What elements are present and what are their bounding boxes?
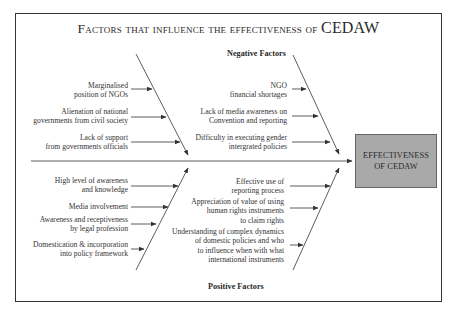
title-emphasis: CEDAW — [321, 19, 379, 36]
factor-marginalised-ngos: Marginalised position of NGOs — [74, 81, 128, 100]
factor-legal-profession: Awareness and receptiveness by legal pro… — [40, 215, 128, 234]
positive-factors-heading: Positive Factors — [208, 282, 264, 291]
bone-lower-right — [293, 168, 339, 270]
factor-appreciation-hr-instruments: Appreciation of value of using human rig… — [191, 197, 284, 225]
factor-high-awareness: High level of awareness and knowledge — [55, 176, 128, 195]
factor-understanding-dynamics: Understanding of complex dynamics of dom… — [172, 227, 284, 265]
factor-difficulty-gender-policies: Difficulty in executing gender intergrat… — [195, 133, 287, 152]
bone-upper-left — [136, 54, 188, 155]
effect-line2: OF CEDAW — [374, 161, 418, 172]
bone-upper-right — [293, 55, 339, 154]
effect-line1: EFFECTIVENESS — [363, 150, 429, 161]
title-prefix: Factors that influence the effectiveness… — [78, 21, 321, 36]
factor-ngo-financial-shortages: NGO financial shortages — [230, 81, 287, 100]
negative-factors-heading: Negative Factors — [227, 49, 286, 58]
factor-lack-of-support: Lack of support from governments officia… — [45, 133, 128, 152]
factor-media-involvement: Media involvement — [69, 202, 128, 211]
effect-box: EFFECTIVENESS OF CEDAW — [355, 134, 437, 188]
factor-effective-reporting: Effective use of reporting process — [231, 177, 284, 196]
factor-lack-media-awareness: Lack of media awareness on Convention an… — [201, 107, 287, 126]
factor-alienation-governments: Alienation of national governments from … — [33, 107, 128, 126]
diagram-title: Factors that influence the effectiveness… — [0, 19, 457, 37]
factor-domestication: Domestication & incorporation into polic… — [33, 240, 128, 259]
